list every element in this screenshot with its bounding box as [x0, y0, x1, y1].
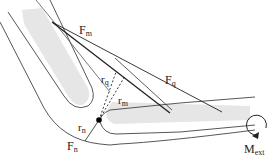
joint-center-dot — [96, 117, 102, 123]
label-fq: Fq — [165, 73, 176, 88]
knee-diagram: Fm Fq rq rm rn Fn Mext — [0, 0, 271, 157]
mext-arrowhead-icon — [252, 132, 259, 139]
shin-outer-contour — [120, 130, 255, 144]
rn-moment-arm — [85, 120, 99, 141]
label-mext: Mext — [244, 142, 265, 157]
tibia-bone-shading — [106, 102, 250, 124]
label-fn: Fn — [67, 139, 78, 154]
label-fm: Fm — [79, 23, 93, 38]
label-rq: rq — [101, 73, 109, 87]
label-rn: rn — [78, 121, 86, 135]
label-rm: rm — [118, 94, 129, 108]
